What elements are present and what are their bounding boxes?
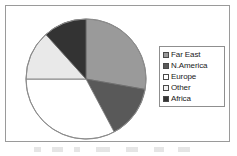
legend-swatch-n-america bbox=[163, 63, 169, 69]
legend-item-far-east[interactable]: Far East bbox=[162, 49, 222, 60]
legend-label-other: Other bbox=[171, 83, 191, 92]
legend-item-n-america[interactable]: N.America bbox=[162, 60, 222, 71]
legend-item-africa[interactable]: Africa bbox=[162, 93, 222, 104]
legend-label-n-america: N.America bbox=[171, 61, 207, 70]
legend-label-europe: Europe bbox=[171, 72, 196, 81]
pie-svg bbox=[23, 18, 149, 140]
legend-label-africa: Africa bbox=[171, 94, 191, 103]
pie-slices bbox=[26, 19, 146, 139]
legend-label-far-east: Far East bbox=[171, 50, 200, 59]
legend-swatch-europe bbox=[163, 74, 169, 80]
legend-swatch-far-east bbox=[163, 52, 169, 58]
legend-swatch-africa bbox=[163, 96, 169, 102]
pie-slice-far-east[interactable] bbox=[86, 19, 146, 89]
legend-swatch-other bbox=[163, 85, 169, 91]
chart-legend: Far East N.America Europe Other Africa bbox=[159, 46, 225, 107]
pie-chart bbox=[23, 18, 149, 140]
caption-strip-illegible bbox=[30, 147, 205, 152]
chart-frame: Far East N.America Europe Other Africa bbox=[5, 5, 230, 142]
chart-screenshot: Far East N.America Europe Other Africa bbox=[0, 0, 237, 156]
legend-item-other[interactable]: Other bbox=[162, 82, 222, 93]
legend-item-europe[interactable]: Europe bbox=[162, 71, 222, 82]
